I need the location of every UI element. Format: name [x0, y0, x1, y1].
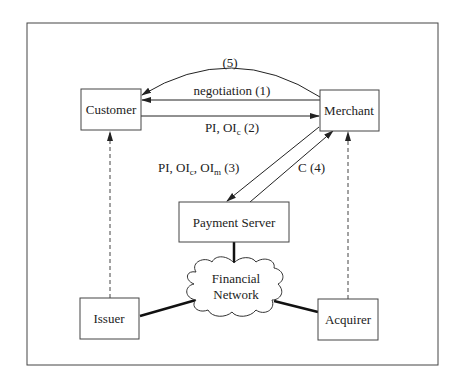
- acquirer-network-link: [274, 301, 318, 312]
- edge-2-label: PI, OIc (2): [205, 120, 259, 137]
- merchant-label: Merchant: [324, 103, 374, 118]
- node-acquirer: Acquirer: [318, 299, 378, 340]
- issuer-label: Issuer: [93, 311, 125, 326]
- financial-network-label-line1: Financial: [212, 271, 261, 286]
- edge-1-label: negotiation (1): [194, 83, 271, 98]
- financial-network-label-line2: Network: [213, 287, 259, 302]
- payment-server-label: Payment Server: [193, 215, 276, 230]
- edge-3-label: PI, OIc, OIm (3): [158, 160, 239, 177]
- node-issuer: Issuer: [80, 298, 139, 339]
- edge-5-label: (5): [222, 55, 237, 70]
- acquirer-label: Acquirer: [325, 312, 372, 327]
- node-payment-server: Payment Server: [179, 202, 289, 242]
- customer-label: Customer: [86, 102, 137, 117]
- issuer-network-link: [140, 300, 196, 316]
- node-customer: Customer: [81, 89, 141, 130]
- payment-diagram: (5) negotiation (1) PI, OIc (2) PI, OIc,…: [0, 0, 462, 387]
- node-financial-network: Financial Network: [187, 257, 283, 316]
- edge-4-label: C (4): [298, 160, 325, 175]
- node-merchant: Merchant: [320, 90, 379, 131]
